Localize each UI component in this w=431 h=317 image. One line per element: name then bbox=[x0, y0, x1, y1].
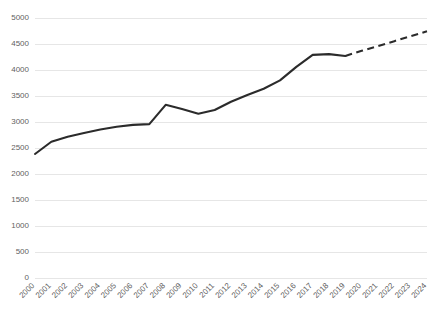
y-tick-label: 3500 bbox=[11, 91, 29, 100]
x-tick-label: 2003 bbox=[66, 281, 85, 300]
x-tick-label: 2018 bbox=[311, 281, 330, 300]
y-tick-label: 500 bbox=[16, 247, 30, 256]
gridlines bbox=[35, 19, 427, 279]
y-tick-label: 2500 bbox=[11, 143, 29, 152]
x-tick-label: 2022 bbox=[377, 281, 396, 300]
series-line-actual bbox=[35, 54, 345, 154]
x-tick-label: 2013 bbox=[230, 281, 249, 300]
y-tick-label: 3000 bbox=[11, 117, 29, 126]
x-tick-label: 2015 bbox=[262, 281, 281, 300]
x-tick-label: 2007 bbox=[132, 281, 151, 300]
x-tick-label: 2011 bbox=[198, 281, 217, 300]
series-line-projection bbox=[345, 31, 427, 56]
x-tick-label: 2024 bbox=[409, 281, 428, 300]
x-tick-label: 2017 bbox=[295, 281, 314, 300]
x-tick-label: 2021 bbox=[360, 281, 379, 300]
x-tick-label: 2020 bbox=[344, 281, 363, 300]
y-tick-label: 0 bbox=[25, 273, 30, 282]
x-tick-label: 2008 bbox=[148, 281, 167, 300]
x-tick-label: 2000 bbox=[17, 281, 36, 300]
x-tick-label: 2009 bbox=[164, 281, 183, 300]
y-tick-label: 4000 bbox=[11, 65, 29, 74]
x-tick-label: 2005 bbox=[99, 281, 118, 300]
x-tick-label: 2014 bbox=[246, 281, 265, 300]
y-tick-label: 1000 bbox=[11, 221, 29, 230]
x-tick-label: 2006 bbox=[115, 281, 134, 300]
y-axis-labels: 0500100015002000250030003500400045005000 bbox=[11, 13, 29, 282]
x-tick-label: 2016 bbox=[279, 281, 298, 300]
x-tick-label: 2001 bbox=[34, 281, 53, 300]
y-tick-label: 4500 bbox=[11, 39, 29, 48]
x-tick-label: 2019 bbox=[328, 281, 347, 300]
line-chart: 0500100015002000250030003500400045005000… bbox=[0, 0, 431, 317]
y-tick-label: 2000 bbox=[11, 169, 29, 178]
x-tick-label: 2004 bbox=[83, 281, 102, 300]
x-tick-label: 2012 bbox=[213, 281, 232, 300]
y-tick-label: 1500 bbox=[11, 195, 29, 204]
x-tick-label: 2010 bbox=[181, 281, 200, 300]
data-series bbox=[35, 31, 427, 154]
x-tick-label: 2023 bbox=[393, 281, 412, 300]
x-tick-label: 2002 bbox=[50, 281, 69, 300]
x-axis-labels: 2000200120022003200420052006200720082009… bbox=[17, 281, 428, 300]
chart-canvas: 0500100015002000250030003500400045005000… bbox=[0, 0, 431, 317]
y-tick-label: 5000 bbox=[11, 13, 29, 22]
